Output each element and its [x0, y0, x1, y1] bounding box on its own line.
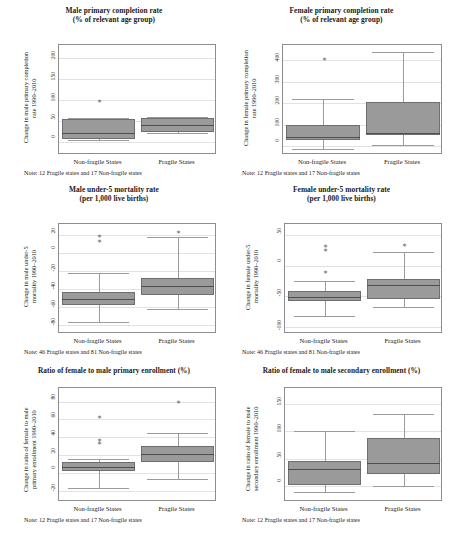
plot-area: 0100200300400∗ [282, 44, 442, 154]
plot-area: -100-50050∗∗∗∗ [284, 223, 442, 333]
y-tick-label: -80 [51, 318, 57, 325]
whisker-cap-upper [294, 431, 355, 432]
panel-title-line1: Male under-5 mortality rate [69, 185, 159, 194]
gridline [283, 146, 441, 147]
x-tick-label-0: Non-fragile States [58, 337, 137, 344]
y-tick-label: 0 [277, 259, 283, 262]
panel-title: Female under-5 mortality rate (per 1,000… [228, 185, 455, 203]
whisker-cap-lower [373, 307, 434, 308]
whisker-line [178, 237, 179, 309]
whisker-cap-lower [294, 492, 355, 493]
median-line [62, 467, 135, 468]
panel-title: Female primary completion rate (% of rel… [228, 6, 455, 24]
panel-male-primary-completion-rate: Male primary completion rate (% of relev… [0, 0, 228, 179]
y-axis-label: Change in male primary completion rate 1… [22, 42, 38, 154]
outlier-marker: ∗ [97, 234, 102, 238]
gridline [59, 402, 215, 403]
panel-title: Ratio of female to male primary enrollme… [0, 366, 228, 375]
y-tick-label: 0 [51, 246, 57, 249]
x-tick-label-1: Fragile States [137, 505, 216, 512]
panel-title-line2: (per 1,000 live births) [228, 194, 455, 203]
outlier-marker: ∗ [97, 441, 102, 445]
plot-area: 050100150200∗ [58, 44, 216, 154]
outlier-marker: ∗ [323, 248, 328, 252]
median-line [288, 469, 361, 470]
gridline [59, 58, 215, 59]
panel-note: Note: 12 Fragile states and 17 Non-fragi… [24, 170, 142, 176]
panel-male-under5-mortality-rate: Male under-5 mortality rate (per 1,000 l… [0, 179, 228, 357]
x-tick-label-0: Non-fragile States [58, 158, 137, 165]
y-tick-label: -20 [51, 484, 57, 491]
outlier-marker: ∗ [97, 415, 102, 419]
y-tick-label: -60 [51, 300, 57, 307]
x-tick-label-0: Non-fragile States [58, 505, 137, 512]
gridline [59, 419, 215, 420]
gridline [59, 491, 215, 492]
gridline [283, 60, 441, 61]
y-tick-label: 50 [277, 452, 283, 458]
y-tick-label: 200 [275, 96, 281, 104]
gridline [285, 327, 441, 328]
whisker-cap-lower [68, 140, 129, 141]
gridline [59, 253, 215, 254]
whisker-cap-lower [373, 486, 434, 487]
outlier-marker: ∗ [176, 400, 181, 404]
gridline [285, 266, 441, 267]
y-axis-label: Change in female under-5 mortality 1990–… [244, 221, 260, 333]
whisker-cap-upper [68, 273, 129, 274]
whisker-cap-lower [147, 133, 208, 134]
median-line [366, 133, 440, 134]
box [288, 291, 361, 301]
box [288, 461, 361, 484]
gridline [59, 79, 215, 80]
median-line [367, 463, 440, 464]
y-tick-label: 50 [277, 228, 283, 234]
x-tick-label-1: Fragile States [363, 505, 442, 512]
whisker-cap-upper [147, 237, 208, 238]
whisker-cap-lower [292, 149, 354, 150]
outlier-marker: ∗ [402, 243, 407, 247]
y-tick-label: 200 [51, 51, 57, 59]
whisker-cap-lower [372, 145, 434, 146]
median-line [141, 286, 214, 287]
median-line [141, 454, 214, 455]
outlier-marker: ∗ [97, 99, 102, 103]
gridline [285, 235, 441, 236]
x-tick-label-1: Fragile States [137, 158, 216, 165]
y-tick-label: 20 [51, 448, 57, 454]
y-tick-label: -50 [277, 289, 283, 296]
whisker-cap-lower [147, 479, 208, 480]
panel-title-line1: Ratio of female to male primary enrollme… [38, 366, 190, 375]
panel-note: Note: 46 Fragile states and 81 Non-fragi… [24, 349, 142, 355]
gridline [285, 404, 441, 405]
x-tick-label-0: Non-fragile States [284, 337, 363, 344]
y-tick-label: 0 [277, 479, 283, 482]
panel-title-line1: Ratio of female to male secondary enroll… [263, 366, 421, 375]
whisker-cap-upper [68, 459, 129, 460]
plot-area: -20020406080∗∗∗∗ [58, 387, 216, 501]
y-tick-label: 100 [277, 424, 283, 432]
gridline [59, 437, 215, 438]
whisker-cap-upper [294, 281, 355, 282]
gridline [283, 82, 441, 83]
y-tick-label: 0 [51, 135, 57, 138]
outlier-marker: ∗ [176, 230, 181, 234]
y-tick-label: 0 [51, 466, 57, 469]
y-tick-label: 100 [51, 93, 57, 101]
y-tick-label: 20 [51, 228, 57, 234]
panel-ratio-female-male-secondary-enrollment: Ratio of female to male secondary enroll… [228, 357, 455, 536]
y-tick-label: 100 [275, 118, 281, 126]
whisker-cap-lower [68, 488, 129, 489]
gridline [59, 142, 215, 143]
panel-note: Note: 12 Fragile states and 17 Non-fragi… [242, 517, 360, 523]
y-tick-label: 50 [51, 114, 57, 120]
whisker-cap-lower [294, 316, 355, 317]
whisker-cap-upper [372, 52, 434, 53]
whisker-cap-upper [292, 99, 354, 100]
y-tick-label: 150 [51, 72, 57, 80]
panel-title: Ratio of female to male secondary enroll… [228, 366, 455, 375]
panel-title: Male under-5 mortality rate (per 1,000 l… [0, 185, 228, 203]
median-line [286, 137, 360, 138]
gridline [59, 325, 215, 326]
panel-title-line2: (per 1,000 live births) [0, 194, 228, 203]
